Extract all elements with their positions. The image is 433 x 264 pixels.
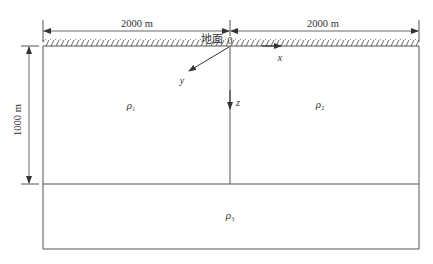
region-rho2-label: ρ2 (315, 98, 324, 111)
origin-label: 0 (228, 35, 233, 46)
model-diagram: 2000 m 2000 m 1000 m 地面 0 x y z ρ1 ρ2 ρ3 (0, 0, 433, 264)
rho3-subscript: 3 (231, 216, 234, 222)
region-rho3-label: ρ3 (225, 209, 234, 222)
depth-label: 1000 m (12, 104, 23, 136)
region-rho1-label: ρ1 (126, 99, 135, 112)
x-axis-label: x (277, 52, 283, 63)
depth-dimension: 1000 m (12, 46, 39, 184)
rho2-subscript: 2 (321, 105, 324, 111)
dim-label-right: 2000 m (307, 18, 339, 29)
z-axis-label: z (235, 97, 240, 108)
y-axis-arrow (189, 47, 229, 71)
surface-label: 地面 (201, 33, 223, 46)
rho1-subscript: 1 (132, 106, 135, 112)
y-axis-label: y (179, 75, 185, 86)
dim-label-left: 2000 m (121, 18, 153, 29)
coordinate-axes: x y z (179, 46, 283, 109)
